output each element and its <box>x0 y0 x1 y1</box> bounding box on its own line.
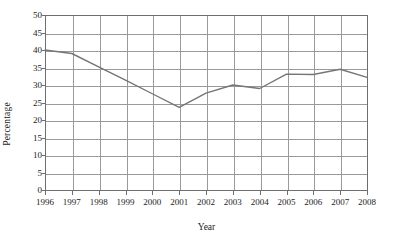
x-axis-tick-mark <box>152 191 153 195</box>
plot-area <box>45 15 368 191</box>
x-axis-tick-mark <box>367 191 368 195</box>
x-axis-tick-mark <box>179 191 180 195</box>
y-axis-tick-label: 10 <box>16 151 42 160</box>
x-axis-tick-mark <box>287 191 288 195</box>
series-line-percentage <box>45 15 368 191</box>
x-axis-tick-mark <box>126 191 127 195</box>
x-axis-tick-mark <box>45 191 46 195</box>
x-axis-tick-mark <box>206 191 207 195</box>
y-axis-tick-label: 20 <box>16 116 42 125</box>
x-axis-title: Year <box>45 222 368 232</box>
y-axis-tick-label: 50 <box>16 11 42 20</box>
y-axis-tick-label: 5 <box>16 169 42 178</box>
y-axis-tick-label: 45 <box>16 29 42 38</box>
y-axis-tick-label: 0 <box>16 186 42 195</box>
y-axis-tick-labels: 05101520253035404550 <box>12 15 42 191</box>
x-axis-tick-mark <box>313 191 314 195</box>
y-axis-tick-label: 40 <box>16 46 42 55</box>
x-axis-tick-mark <box>99 191 100 195</box>
x-axis-tick-mark <box>340 191 341 195</box>
x-axis-tick-mark <box>72 191 73 195</box>
x-axis-tick-mark <box>260 191 261 195</box>
y-axis-tick-label: 25 <box>16 99 42 108</box>
y-axis-tick-label: 35 <box>16 64 42 73</box>
y-axis-tick-label: 15 <box>16 134 42 143</box>
x-axis-tick-labels: 1996199719981999200020012002200320042005… <box>45 191 368 211</box>
y-axis-tick-label: 30 <box>16 81 42 90</box>
line-chart: Percentage 05101520253035404550 19961997… <box>0 0 393 248</box>
x-axis-tick-label: 2008 <box>350 197 384 207</box>
x-axis-tick-mark <box>233 191 234 195</box>
